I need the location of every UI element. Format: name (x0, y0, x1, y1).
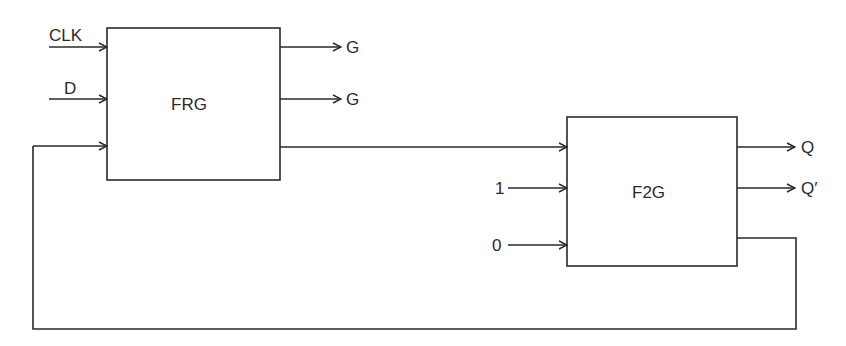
clk-label: CLK (49, 27, 82, 44)
diagram-lines (0, 0, 846, 346)
f2g-label: F2G (632, 184, 665, 201)
d-label: D (64, 80, 76, 97)
g2-label: G (346, 91, 359, 108)
block-diagram: CLK D FRG G G 1 0 F2G Q Q′ (0, 0, 846, 346)
q-label: Q (801, 139, 814, 156)
zero-label: 0 (492, 237, 501, 254)
frg-label: FRG (171, 96, 207, 113)
g1-label: G (346, 39, 359, 56)
qbar-label: Q′ (801, 180, 817, 197)
one-label: 1 (495, 180, 504, 197)
feedback-loop-wire (33, 146, 796, 329)
